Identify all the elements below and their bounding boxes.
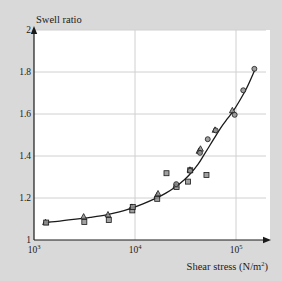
- data-point-square: [106, 218, 111, 223]
- x-axis-label-main: Shear stress (N/m: [187, 261, 262, 273]
- data-point-circle: [213, 128, 218, 133]
- data-point-square: [44, 220, 49, 225]
- data-point-square: [155, 196, 160, 201]
- data-point-square: [82, 219, 87, 224]
- data-point-circle: [252, 66, 257, 71]
- data-point-circle: [174, 182, 179, 187]
- y-tick-label: 1: [26, 235, 31, 245]
- data-point-circle: [241, 88, 246, 93]
- y-tick-label: 1.6: [19, 109, 31, 119]
- plot-area-background: [34, 30, 270, 240]
- swell-ratio-vs-shear-stress-chart: 11.21.41.61.82 103104105 Swell ratio She…: [0, 0, 282, 281]
- x-axis-label: Shear stress (N/m2): [187, 260, 269, 273]
- data-point-circle: [232, 112, 237, 117]
- y-tick-label: 1.8: [19, 67, 31, 77]
- y-tick-label: 1.4: [19, 151, 31, 161]
- chart-figure: 11.21.41.61.82 103104105 Swell ratio She…: [0, 0, 282, 281]
- data-point-circle: [205, 137, 210, 142]
- y-tick-label: 2: [26, 25, 31, 35]
- data-point-circle: [188, 168, 193, 173]
- data-point-square: [164, 171, 169, 176]
- data-point-square: [204, 172, 209, 177]
- data-point-circle: [197, 150, 202, 155]
- data-point-square: [130, 205, 135, 210]
- data-point-square: [186, 179, 191, 184]
- y-tick-label: 1.2: [19, 193, 31, 203]
- x-axis-label-tail: ): [265, 261, 269, 273]
- y-axis-label: Swell ratio: [36, 14, 82, 25]
